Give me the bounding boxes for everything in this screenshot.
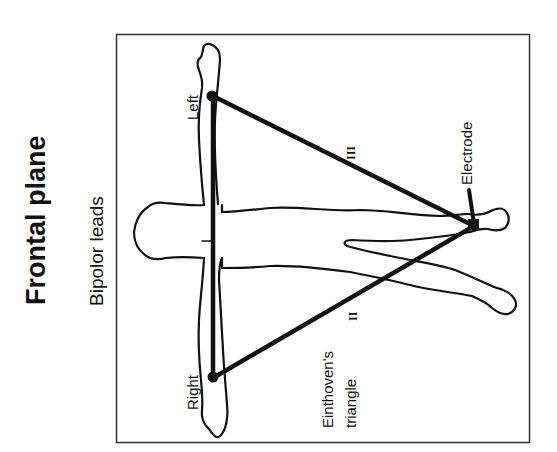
left-arm-outline [198, 44, 220, 205]
right-foot-outline [472, 288, 516, 314]
foot-electrode [468, 219, 479, 230]
lead-3-label: III [344, 146, 359, 160]
left-label: Left [184, 95, 201, 120]
lead-2-line [213, 226, 474, 378]
right-electrode [208, 372, 219, 383]
electrode-pointer [469, 190, 474, 224]
electrode-label: Electrode [458, 122, 475, 185]
lead-2-label: II [346, 312, 361, 321]
diagram-canvas [0, 0, 557, 452]
triangle-label-line1: Einthoven's [319, 351, 336, 428]
left-electrode [207, 91, 218, 102]
lead-3-line [213, 96, 474, 226]
head-outline [134, 203, 204, 260]
inner-leg-outline [345, 232, 497, 288]
right-label: Right [184, 375, 201, 410]
triangle-label-line2: triangle [342, 379, 359, 428]
subtitle: Bipolor leads [86, 196, 108, 306]
page-title: Frontal plane [21, 135, 52, 305]
